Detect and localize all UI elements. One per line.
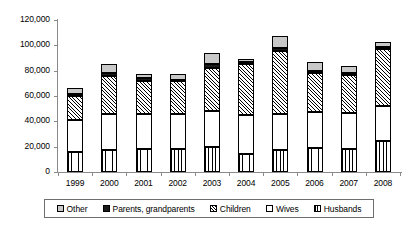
x-axis-tick-mark — [161, 172, 162, 176]
legend-item-children[interactable]: Children — [210, 204, 251, 214]
plot-area — [58, 20, 400, 172]
bar-2007 — [341, 20, 357, 172]
bar-2001 — [136, 20, 152, 172]
bar-segment-children — [67, 96, 83, 120]
chart-legend: OtherParents, grandparentsChildrenWivesH… — [44, 199, 374, 218]
bar-segment-wives — [67, 120, 83, 152]
bar-segment-husbands — [101, 150, 117, 172]
x-axis-tick-mark — [263, 172, 264, 176]
bar-segment-other — [238, 59, 254, 62]
x-axis-tick-mark — [195, 172, 196, 176]
x-axis-tick-label: 2006 — [297, 178, 331, 188]
bar-segment-children — [375, 49, 391, 107]
legend-item-parents[interactable]: Parents, grandparents — [103, 204, 195, 214]
x-axis-tick-mark — [297, 172, 298, 176]
bar-segment-parents — [136, 78, 152, 81]
x-axis-tick-label: 1999 — [58, 178, 92, 188]
y-axis-tick-label: 0 — [45, 166, 50, 176]
bar-2005 — [272, 20, 288, 172]
legend-item-label: Wives — [276, 204, 299, 214]
bar-segment-children — [238, 64, 254, 115]
bar-segment-other — [272, 36, 288, 47]
bar-segment-parents — [272, 48, 288, 51]
bar-segment-husbands — [238, 154, 254, 172]
legend-item-wives[interactable]: Wives — [266, 204, 299, 214]
bar-segment-wives — [204, 111, 220, 146]
y-axis-tick-label: 100,000 — [20, 39, 50, 49]
legend-item-husbands[interactable]: Husbands — [314, 204, 361, 214]
bar-segment-children — [341, 75, 357, 113]
bar-segment-wives — [375, 106, 391, 141]
bar-segment-children — [101, 76, 117, 114]
x-axis-tick-mark — [400, 172, 401, 176]
bar-segment-wives — [101, 114, 117, 150]
bar-segment-wives — [272, 114, 288, 150]
parents-swatch-icon — [103, 205, 110, 212]
y-axis-tick-label: 80,000 — [25, 65, 50, 75]
bar-segment-parents — [341, 73, 357, 75]
bar-segment-parents — [204, 64, 220, 68]
bar-segment-children — [170, 81, 186, 113]
bar-segment-husbands — [375, 141, 391, 172]
bar-segment-other — [341, 66, 357, 74]
bar-segment-other — [375, 42, 391, 47]
x-axis-tick-label: 2000 — [92, 178, 126, 188]
bar-1999 — [67, 20, 83, 172]
x-axis-tick-label: 2007 — [332, 178, 366, 188]
bar-segment-other — [67, 88, 83, 94]
bar-segment-parents — [238, 62, 254, 64]
legend-item-label: Husbands — [324, 204, 361, 214]
bar-segment-husbands — [170, 149, 186, 172]
legend-item-label: Children — [220, 204, 251, 214]
bar-segment-other — [136, 74, 152, 78]
bar-segment-husbands — [136, 149, 152, 172]
bar-segment-wives — [341, 113, 357, 148]
bar-segment-children — [204, 68, 220, 112]
bar-segment-wives — [170, 114, 186, 149]
x-axis-tick-mark — [332, 172, 333, 176]
bar-segment-wives — [136, 114, 152, 148]
bar-segment-other — [101, 64, 117, 72]
bar-segment-husbands — [341, 149, 357, 172]
x-axis-tick-mark — [126, 172, 127, 176]
x-axis-tick-label: 2002 — [161, 178, 195, 188]
legend-item-label: Parents, grandparents — [113, 204, 195, 214]
bar-segment-husbands — [204, 147, 220, 172]
stacked-bar-chart: 020,00040,00060,00080,000100,000120,000 … — [0, 0, 412, 231]
bar-segment-wives — [307, 112, 323, 147]
bar-segment-children — [307, 73, 323, 113]
husbands-swatch-icon — [314, 205, 321, 212]
x-axis-tick-mark — [58, 172, 59, 176]
children-swatch-icon — [210, 205, 217, 212]
bar-segment-parents — [67, 94, 83, 96]
bar-segment-other — [204, 53, 220, 64]
x-axis-tick-mark — [229, 172, 230, 176]
bar-segment-other — [307, 62, 323, 71]
bar-2004 — [238, 20, 254, 172]
bar-segment-children — [272, 51, 288, 114]
bar-segment-parents — [170, 79, 186, 81]
bar-2008 — [375, 20, 391, 172]
bar-2006 — [307, 20, 323, 172]
wives-swatch-icon — [266, 205, 273, 212]
legend-item-label: Other — [67, 204, 88, 214]
y-axis-tick-label: 20,000 — [25, 141, 50, 151]
bar-segment-parents — [307, 71, 323, 73]
x-axis-tick-label: 2003 — [195, 178, 229, 188]
y-axis-tick-label: 40,000 — [25, 115, 50, 125]
bar-segment-husbands — [272, 150, 288, 172]
legend-item-other[interactable]: Other — [57, 204, 88, 214]
bar-2002 — [170, 20, 186, 172]
bar-segment-wives — [238, 115, 254, 154]
bar-segment-other — [170, 74, 186, 79]
x-axis-tick-label: 2005 — [263, 178, 297, 188]
x-axis-tick-label: 2004 — [229, 178, 263, 188]
y-axis-tick-label: 60,000 — [25, 90, 50, 100]
x-axis-tick-label: 2008 — [366, 178, 400, 188]
x-axis-tick-mark — [366, 172, 367, 176]
bar-segment-husbands — [307, 148, 323, 172]
x-axis-tick-label: 2001 — [126, 178, 160, 188]
bar-segment-parents — [101, 73, 117, 76]
bar-segment-parents — [375, 47, 391, 49]
bar-segment-husbands — [67, 152, 83, 172]
